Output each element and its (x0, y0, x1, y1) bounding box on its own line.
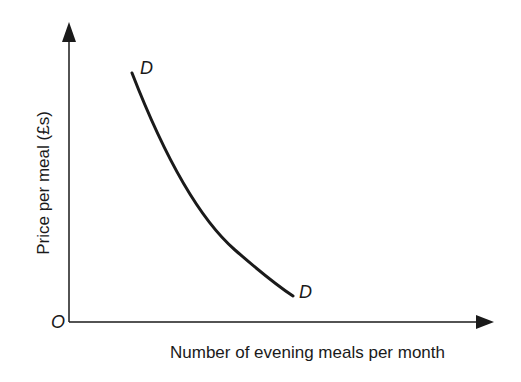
y-axis-arrow-icon (62, 22, 76, 42)
curve-start-label: D (140, 58, 153, 79)
x-axis-arrow-icon (476, 315, 494, 329)
diagram-canvas (0, 0, 521, 382)
demand-curve (132, 73, 293, 296)
y-axis-label: Price per meal (£s) (34, 111, 54, 255)
x-axis-label: Number of evening meals per month (170, 343, 445, 363)
demand-diagram: D D O Price per meal (£s) Number of even… (0, 0, 521, 382)
origin-label: O (51, 312, 65, 333)
curve-end-label: D (299, 282, 312, 303)
